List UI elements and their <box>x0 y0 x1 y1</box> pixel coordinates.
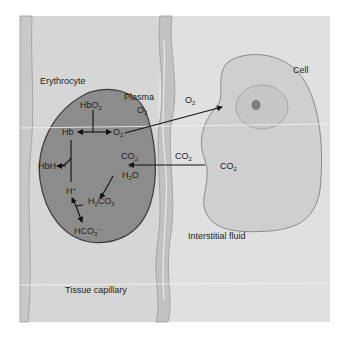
label-plasma: Plasma <box>124 93 154 102</box>
label-erythrocyte: Erythrocyte <box>40 77 86 86</box>
cell-nucleus <box>236 85 288 129</box>
label-tissue-capillary: Tissue capillary <box>65 286 127 295</box>
label-h-plus: H+ <box>66 186 76 196</box>
label-o2-rbc: O2 <box>113 128 123 138</box>
cell-nucleolus <box>252 100 261 110</box>
label-h2o: H2O <box>122 171 139 181</box>
gas-exchange-diagram: Erythrocyte Plasma Cell Interstitial flu… <box>0 0 344 351</box>
label-o2-plasma: O2 <box>137 106 147 116</box>
label-hco3: HCO3− <box>74 226 101 237</box>
label-h2co3: H2CO3 <box>88 197 115 207</box>
label-o2-interstitial: O2 <box>185 96 195 106</box>
label-cell: Cell <box>293 66 309 75</box>
label-hbo2: HbO2 <box>80 101 102 111</box>
label-hb: Hb <box>62 128 74 137</box>
label-co2-interstitial: CO2 <box>175 152 192 162</box>
label-co2-cell: CO2 <box>220 162 237 172</box>
label-hbh: HbH <box>38 162 56 171</box>
label-interstitial-fluid: Interstitial fluid <box>188 232 246 241</box>
